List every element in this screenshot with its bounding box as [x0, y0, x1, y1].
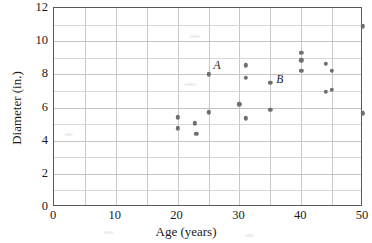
- data-point: [324, 90, 328, 94]
- data-point: [243, 63, 247, 67]
- point-label-b: B: [276, 74, 283, 86]
- y-tick-label: 12: [28, 1, 48, 14]
- x-tick-label: 10: [109, 209, 122, 222]
- data-point: [330, 88, 334, 92]
- plot-area: [53, 7, 362, 206]
- data-point: [299, 69, 303, 73]
- y-axis-title: Diameter (in.): [9, 58, 25, 158]
- paper-speckle: [245, 234, 254, 237]
- data-point: [243, 75, 247, 79]
- data-point: [361, 24, 365, 28]
- data-point: [361, 111, 365, 115]
- data-point: [193, 121, 197, 125]
- data-point: [299, 58, 303, 62]
- y-tick-label: 0: [28, 200, 48, 213]
- data-point: [237, 102, 241, 106]
- x-tick-label: 0: [50, 209, 56, 222]
- scatter-chart: 01020304050 024681012 AB Age (years) Dia…: [0, 0, 372, 243]
- x-axis-title: Age (years): [0, 224, 372, 240]
- point-label-a: A: [214, 61, 221, 73]
- x-tick-label: 30: [232, 209, 245, 222]
- x-tick-label: 50: [356, 209, 369, 222]
- x-tick-label: 20: [170, 209, 183, 222]
- y-tick-label: 10: [28, 34, 48, 47]
- data-point: [206, 110, 210, 114]
- y-tick-label: 8: [28, 67, 48, 80]
- paper-speckle: [189, 35, 201, 38]
- x-tick-label: 40: [294, 209, 307, 222]
- data-point: [243, 116, 247, 120]
- data-point: [299, 51, 303, 55]
- data-point: [268, 80, 272, 84]
- data-point: [268, 108, 272, 112]
- data-point: [175, 126, 179, 130]
- data-point: [175, 115, 179, 119]
- y-tick-label: 4: [28, 133, 48, 146]
- paper-speckle: [64, 133, 73, 136]
- data-point: [330, 69, 334, 73]
- data-point: [324, 61, 328, 65]
- y-tick-label: 6: [28, 100, 48, 113]
- data-point: [206, 72, 210, 76]
- y-tick-label: 2: [28, 167, 48, 180]
- data-point: [194, 132, 198, 136]
- data-points: [54, 8, 361, 205]
- paper-speckle: [104, 231, 114, 234]
- paper-speckle: [183, 83, 197, 86]
